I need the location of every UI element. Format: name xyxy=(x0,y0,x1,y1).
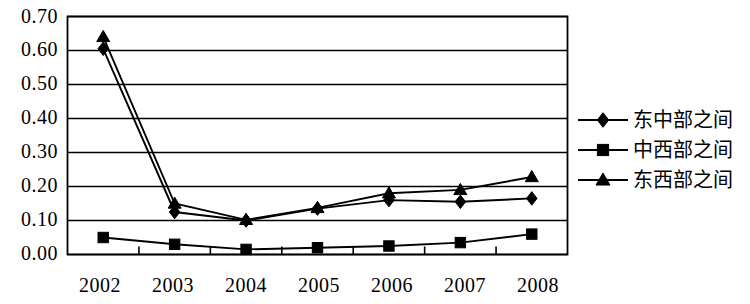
marker-triangle xyxy=(97,30,110,41)
legend-item-1[interactable] xyxy=(578,113,628,128)
marker-square xyxy=(169,239,179,249)
series-line xyxy=(103,37,532,220)
line-chart: 0.70 0.60 0.50 0.40 0.30 0.20 0.10 0.00 … xyxy=(0,0,750,304)
marker-diamond xyxy=(597,113,608,128)
series-3 xyxy=(97,30,539,224)
legend-label-dongxibu: 东西部之间 xyxy=(633,170,733,190)
y-axis-tick-label: 0.40 xyxy=(0,107,58,127)
x-axis-tick-label: 2003 xyxy=(133,275,213,295)
legend-item-2[interactable] xyxy=(578,144,628,155)
legend-label-zhongxibu: 中西部之间 xyxy=(633,140,733,160)
legend-label-dongzhongbu: 东中部之间 xyxy=(633,110,733,130)
x-axis-tick-label: 2004 xyxy=(206,275,286,295)
legend-markers xyxy=(578,113,628,185)
plot-frame xyxy=(68,17,568,255)
y-axis-tick-label: 0.00 xyxy=(0,243,58,263)
marker-square xyxy=(98,232,108,242)
marker-square xyxy=(241,244,251,254)
x-axis-tick-label: 2007 xyxy=(425,275,505,295)
series-1 xyxy=(98,42,537,227)
marker-triangle xyxy=(596,173,610,185)
x-axis-tick-label: 2002 xyxy=(60,275,140,295)
marker-square xyxy=(384,241,394,251)
gridlines xyxy=(68,17,568,255)
y-axis-tick-label: 0.30 xyxy=(0,141,58,161)
y-axis-tick-label: 0.20 xyxy=(0,175,58,195)
marker-square xyxy=(312,243,322,253)
y-axis-tick-label: 0.60 xyxy=(0,39,58,59)
y-axis-tick-label: 0.10 xyxy=(0,209,58,229)
legend-item-3[interactable] xyxy=(578,173,628,185)
y-axis-tick-label: 0.50 xyxy=(0,73,58,93)
x-axis-tick-label: 2008 xyxy=(498,275,578,295)
marker-square xyxy=(527,229,537,239)
marker-square xyxy=(455,237,465,247)
x-axis-tick-label: 2006 xyxy=(352,275,432,295)
marker-diamond xyxy=(527,192,538,206)
marker-square xyxy=(597,144,608,155)
y-axis-tick-label: 0.70 xyxy=(0,6,58,26)
plot-border xyxy=(68,17,568,255)
marker-diamond xyxy=(455,195,466,209)
x-axis-tick-label: 2005 xyxy=(279,275,359,295)
series-2 xyxy=(98,229,537,255)
marker-triangle xyxy=(525,170,538,181)
